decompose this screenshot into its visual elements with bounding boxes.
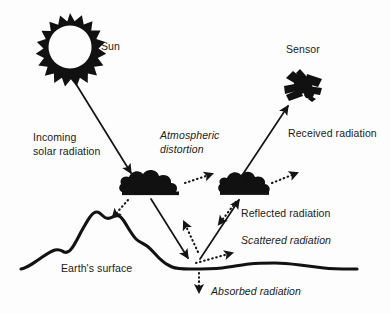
ground-to-cloud-right-arrow <box>200 200 239 259</box>
sensor-label: Sensor <box>286 43 320 55</box>
remote-sensing-diagram: Sun Sensor <box>0 0 391 314</box>
cloud-right-downleft-dotted-arrow <box>219 202 236 224</box>
cloud-left-downleft-dotted-arrow <box>113 200 128 217</box>
sun-icon <box>36 13 107 87</box>
atmospheric-distortion-arrow <box>185 174 212 183</box>
satellite-icon <box>284 69 322 102</box>
incoming-solar-label-line2: solar radiation <box>33 145 101 157</box>
incoming-solar-arrow <box>76 84 131 173</box>
cloud-left-icon <box>119 170 179 195</box>
cloud-right-upright-dotted-arrow <box>272 173 297 183</box>
incoming-solar-label-line1: Incoming <box>33 131 76 143</box>
received-radiation-label: Received radiation <box>288 127 377 139</box>
ground-to-cloud-left-dotted-arrow <box>184 222 198 252</box>
absorbed-radiation-label: Absorbed radiation <box>210 285 301 297</box>
cloud-left-to-ground-arrow <box>151 199 188 258</box>
atmospheric-distortion-label-line1: Atmospheric <box>159 129 220 141</box>
sun-label: Sun <box>101 40 120 52</box>
scattered-radiation-label: Scattered radiation <box>241 234 331 246</box>
reflected-radiation-label: Reflected radiation <box>241 207 331 219</box>
earth-surface-label: Earth's surface <box>61 262 132 274</box>
cloud-right-to-sensor-arrow <box>241 106 288 177</box>
atmospheric-distortion-label-line2: distortion <box>160 143 204 155</box>
diagram-canvas: Sun Sensor <box>0 0 391 314</box>
cloud-right-icon <box>218 172 270 195</box>
